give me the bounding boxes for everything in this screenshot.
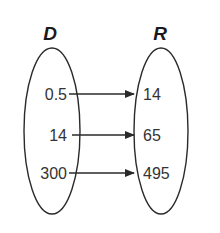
mapping-diagram: D R 0.5 14 300 14 65 495 bbox=[0, 0, 220, 233]
range-value: 495 bbox=[143, 165, 170, 182]
domain-value: 300 bbox=[40, 165, 67, 182]
domain-value: 14 bbox=[49, 127, 67, 144]
range-value: 14 bbox=[143, 86, 161, 103]
range-value: 65 bbox=[143, 127, 161, 144]
domain-value: 0.5 bbox=[45, 86, 67, 103]
range-label: R bbox=[153, 23, 167, 44]
domain-label: D bbox=[43, 23, 57, 44]
